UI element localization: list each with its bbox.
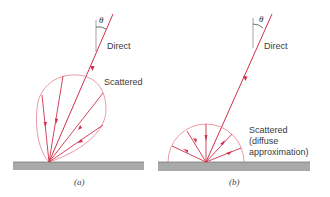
angle-arc-b (253, 24, 263, 28)
direct-label-a: Direct (107, 41, 131, 51)
scattered-label-b-line3: approximation) (249, 147, 309, 157)
scattered-rays-a (42, 76, 103, 162)
theta-label-a: θ (99, 15, 103, 25)
ground-surface-b (158, 162, 310, 171)
panel-a (13, 14, 144, 170)
theta-label-b: θ (259, 14, 263, 24)
caption-b: (b) (229, 177, 240, 187)
direct-label-b: Direct (264, 41, 288, 51)
diagram-canvas (0, 0, 330, 197)
ground-surface-a (13, 162, 144, 170)
scattered-rays-b (172, 124, 241, 162)
scatter-envelope-a (36, 75, 106, 162)
scattered-label-a: Scattered (104, 77, 143, 87)
scattered-label-b-line2: (diffuse (249, 136, 278, 146)
caption-a: (a) (74, 177, 85, 187)
scattered-label-b-line1: Scattered (249, 125, 288, 135)
angle-arc-a (96, 27, 106, 29)
